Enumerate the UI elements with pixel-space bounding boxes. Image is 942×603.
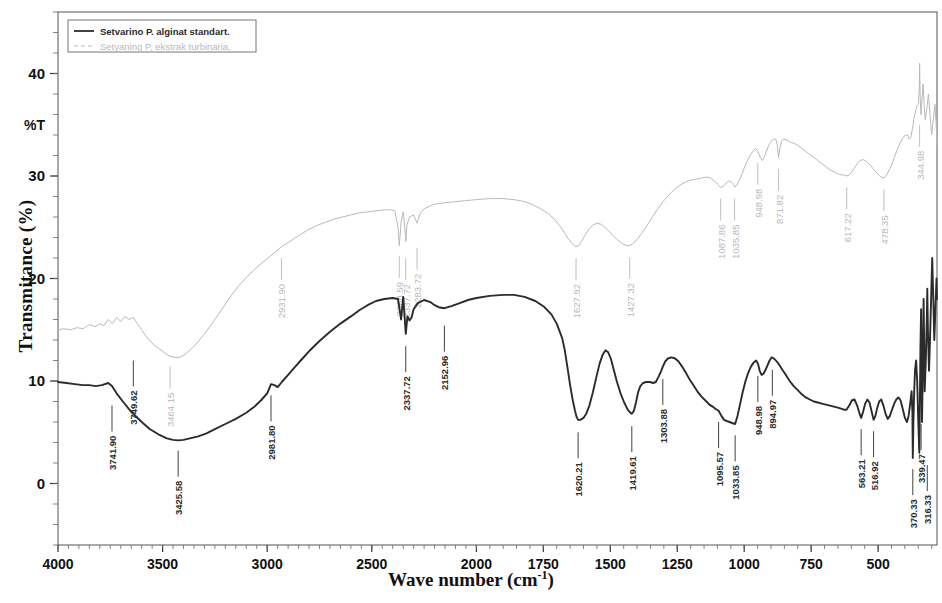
peak-label: 2337.72 — [401, 376, 412, 410]
ftir-spectrum-figure: 4000350030002500200017501500125010007505… — [0, 0, 942, 603]
y-axis-title: Transmitance (%) — [15, 166, 37, 386]
spectrum-curve — [58, 258, 937, 458]
peak-label: 1627.92 — [571, 284, 582, 318]
peak-label: 1095.57 — [714, 452, 725, 486]
peak-label: 1303.88 — [658, 409, 669, 443]
legend-label: Setvarino P. alginat standart. — [100, 26, 230, 37]
peak-label: 948.98 — [753, 406, 764, 435]
peak-label: 2981.80 — [266, 425, 277, 459]
peak-label: 478.35 — [879, 215, 890, 244]
spectrum-plot: 4000350030002500200017501500125010007505… — [0, 0, 942, 603]
peak-label: 617.22 — [842, 213, 853, 242]
peak-label: 948.98 — [753, 189, 764, 218]
spectrum-curve — [58, 63, 937, 357]
x-axis-title-close: ) — [548, 569, 554, 590]
peak-label: 1620.21 — [573, 462, 584, 497]
peak-label: 344.98 — [915, 151, 926, 180]
peak-label: 2931.90 — [276, 284, 287, 318]
peak-label: 370.33 — [908, 499, 919, 528]
peak-label: 894.97 — [767, 400, 778, 429]
peak-label: 3741.90 — [107, 436, 118, 470]
peak-label: 1427.32 — [625, 283, 636, 317]
peak-label: 563.21 — [856, 458, 867, 488]
plot-frame — [58, 12, 937, 545]
peak-label: 3749.62 — [128, 391, 139, 425]
y-tick-label: 0 — [37, 475, 45, 492]
y-tick-label: 40 — [28, 65, 45, 82]
peak-label: 2152.96 — [439, 356, 450, 390]
peak-label: 339.47 — [916, 454, 927, 483]
x-axis-title-text: Wave number (cm — [388, 569, 538, 590]
x-axis-title-sup: -1 — [538, 568, 548, 582]
peak-label: 1035.85 — [730, 225, 741, 259]
peak-label: 3464.15 — [165, 393, 176, 427]
peak-label: 871.82 — [774, 195, 785, 224]
peak-label: 1087.86 — [716, 225, 727, 259]
peak-label: 1419.61 — [627, 455, 638, 490]
peak-label: 3425.58 — [173, 481, 184, 515]
y-axis-unit-label: %T — [24, 117, 45, 133]
peak-label: 316.33 — [922, 495, 933, 524]
peak-label: 516.92 — [869, 461, 880, 490]
peak-label: 1033.85 — [730, 465, 741, 500]
x-axis-title: Wave number (cm-1) — [0, 568, 942, 591]
legend-label: Setyaning P, ekstrak turbinaria, — [100, 41, 231, 52]
